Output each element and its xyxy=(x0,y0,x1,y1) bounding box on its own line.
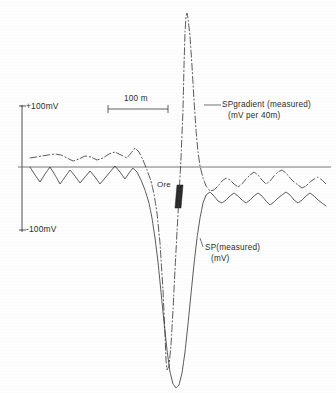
sp-measured-callout-label: SP(measured) (mV) xyxy=(205,243,260,264)
sp-gradient-callout-line1: SPgradient (measured) xyxy=(222,100,311,109)
sp-measured-callout-line1: SP(measured) xyxy=(205,243,260,252)
scale-bar-label: 100 m xyxy=(124,94,148,105)
scale-bar xyxy=(108,105,168,113)
sp-measured-leader-line xyxy=(200,238,203,247)
sp-survey-figure: +100mV -100mV 100 m Ore SPgradient (meas… xyxy=(0,0,336,393)
sp-gradient-callout-label: SPgradient (measured) (mV per 40m) xyxy=(222,100,311,121)
axis-label-negative-100mv: -100mV xyxy=(26,224,57,235)
sp-gradient-callout-line2: (mV per 40m) xyxy=(222,111,311,122)
plot-canvas xyxy=(0,0,336,393)
axis-label-positive-100mv: +100mV xyxy=(26,101,59,112)
ore-body-label: Ore xyxy=(157,180,171,191)
sp-measured-callout-line2: (mV) xyxy=(205,254,260,265)
